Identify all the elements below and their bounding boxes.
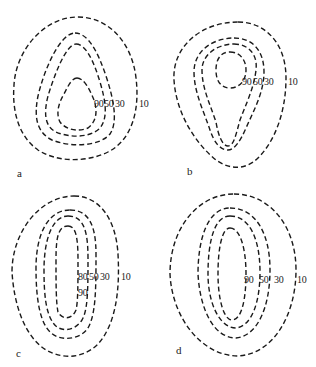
panel-letter-c: c	[16, 348, 21, 359]
label-90: 90	[244, 275, 253, 285]
label-10: 10	[121, 272, 130, 282]
panel-b: 90 50 30 10 b	[158, 0, 316, 183]
contour-30	[36, 33, 114, 145]
contour-50	[46, 44, 106, 136]
label-10: 10	[288, 77, 297, 87]
panel-d-contours	[158, 184, 316, 367]
panel-letter-a: a	[17, 168, 22, 179]
panel-a-contours	[0, 0, 158, 183]
contour-10	[174, 22, 286, 167]
label-50: 50	[253, 77, 262, 87]
panel-c: 80 50 30 10 90 c	[0, 184, 158, 367]
label-90: 90	[242, 77, 251, 87]
contour-10	[14, 17, 137, 160]
label-30: 30	[264, 77, 273, 87]
label-50: 50	[259, 275, 268, 285]
label-90: 90	[78, 288, 87, 298]
label-10: 10	[139, 99, 148, 109]
panel-a: 90 50 30 10 a	[0, 0, 158, 183]
label-90: 90	[94, 99, 103, 109]
label-50: 50	[104, 99, 113, 109]
contour-90	[58, 78, 96, 130]
contour-50	[202, 44, 256, 146]
label-30: 30	[100, 272, 109, 282]
contour-30	[194, 38, 264, 150]
label-30: 30	[274, 275, 283, 285]
label-80: 80	[78, 272, 87, 282]
contour-figure: 90 50 30 10 a 90 50 30 10 b	[0, 0, 316, 367]
label-10: 10	[297, 275, 306, 285]
label-30: 30	[115, 99, 124, 109]
contour-90	[218, 228, 246, 320]
panel-b-contours	[158, 0, 316, 183]
contour-30	[198, 208, 270, 338]
panel-letter-d: d	[176, 345, 182, 356]
contour-50	[208, 216, 260, 328]
panel-d: 90 50 30 10 d	[158, 184, 316, 367]
label-50: 50	[89, 272, 98, 282]
contour-80	[56, 226, 78, 318]
panel-letter-b: b	[187, 166, 193, 177]
